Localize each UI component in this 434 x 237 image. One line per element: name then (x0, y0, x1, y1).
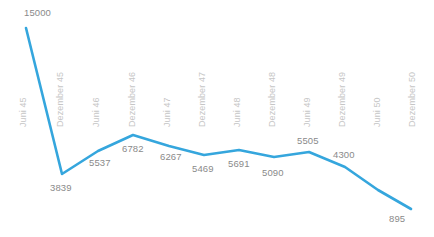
data-value-label: 4300 (333, 150, 355, 160)
x-axis-tick-label: Dezember 50 (408, 72, 417, 127)
data-value-label: 5469 (192, 164, 214, 174)
data-value-label: 6782 (122, 144, 144, 154)
x-axis-tick-label: Dezember 45 (56, 72, 65, 127)
data-value-label: 5691 (228, 159, 250, 169)
x-axis-tick-label: Dezember 46 (128, 72, 137, 127)
data-value-label: 895 (389, 214, 405, 224)
x-axis-tick-label: Juni 46 (92, 97, 101, 127)
line-chart: Juni 45Dezember 45Juni 46Dezember 46Juni… (0, 0, 434, 237)
x-axis-tick-label: Dezember 49 (338, 72, 347, 127)
x-axis-tick-label: Juni 45 (19, 97, 28, 127)
x-axis-tick-label: Juni 50 (373, 97, 382, 127)
series-line-path (26, 28, 411, 209)
data-value-label: 5090 (262, 168, 284, 178)
data-value-label: 6267 (160, 152, 182, 162)
x-axis-tick-label: Dezember 48 (268, 72, 277, 127)
x-axis-tick-label: Juni 49 (303, 97, 312, 127)
data-value-label: 15000 (24, 8, 51, 18)
data-value-label: 5505 (297, 136, 319, 146)
x-axis-tick-label: Juni 48 (233, 97, 242, 127)
data-value-label: 3839 (50, 183, 72, 193)
x-axis-tick-label: Juni 47 (163, 97, 172, 127)
chart-plot-area (0, 0, 434, 237)
x-axis-tick-label: Dezember 47 (198, 72, 207, 127)
data-value-label: 5537 (89, 158, 111, 168)
